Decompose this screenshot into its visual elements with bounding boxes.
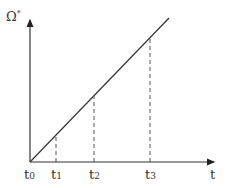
tick-t3: t3 <box>145 168 156 181</box>
y-axis-label: Ω* <box>6 10 21 23</box>
tick-t1: t1 <box>51 168 62 181</box>
omega-line <box>30 18 169 162</box>
diagram-canvas <box>0 0 227 188</box>
tick-t0: t0 <box>24 168 35 181</box>
x-axis-label: t <box>210 168 215 181</box>
tick-t2: t2 <box>89 168 100 181</box>
